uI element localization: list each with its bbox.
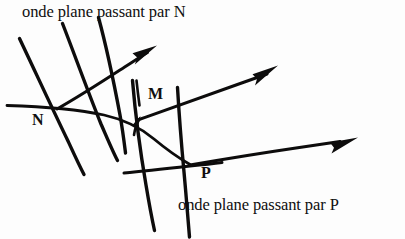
wavefront-tick-m [137,81,140,106]
arrowhead-2 [253,66,279,86]
optics-wavefront-figure: onde plane passant par N onde plane pass… [0,0,405,239]
caption-wavefront-p: onde plane passant par P [178,197,339,214]
point-label-m: M [148,86,163,102]
wavefront-line-p-1 [133,81,155,231]
point-label-n: N [32,112,44,128]
arrowhead-1 [133,46,158,65]
ray-line-3 [190,142,340,166]
ray-arrow-3 [190,138,358,166]
wavefront-group-n [20,18,126,175]
point-label-p: P [201,165,211,181]
caption-wavefront-n: onde plane passant par N [22,4,185,21]
wavefront-line-n-2 [63,24,118,161]
arrowhead-3 [330,138,358,154]
wavefront-line-n-3 [99,18,126,154]
